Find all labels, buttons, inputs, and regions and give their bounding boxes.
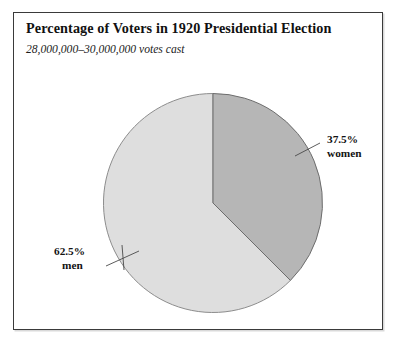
women-percent-label: 37.5% — [327, 133, 358, 145]
men-category-label: men — [62, 259, 83, 271]
women-category-label: women — [327, 147, 362, 159]
men-percent-label: 62.5% — [54, 245, 85, 257]
pie-chart-svg: 37.5% women 62.5% men — [14, 13, 384, 331]
pie-chart-plot-area: 37.5% women 62.5% men — [14, 13, 384, 331]
chart-figure: Percentage of Voters in 1920 Presidentia… — [13, 12, 383, 330]
